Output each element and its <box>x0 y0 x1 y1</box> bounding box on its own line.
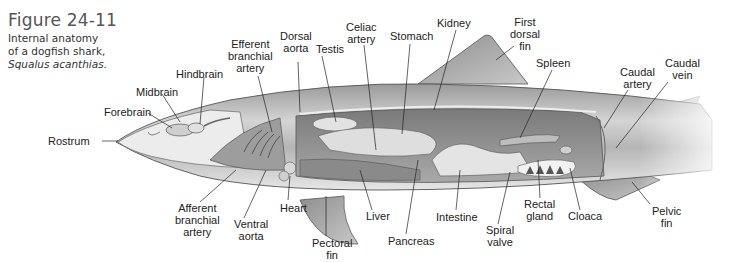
label-liver: Liver <box>366 210 390 222</box>
label-efferent-branchial-artery: Efferent branchial artery <box>228 38 273 74</box>
label-rostrum: Rostrum <box>48 135 90 147</box>
label-caudal-vein: Caudal vein <box>665 57 700 81</box>
label-pectoral-fin: Pectoral fin <box>312 237 352 261</box>
label-kidney: Kidney <box>437 17 471 29</box>
label-cloaca: Cloaca <box>568 210 602 222</box>
label-stomach: Stomach <box>390 30 433 42</box>
label-afferent-branchial-artery: Afferent branchial artery <box>175 202 220 238</box>
label-dorsal-aorta: Dorsal aorta <box>280 30 312 54</box>
label-midbrain: Midbrain <box>136 86 178 98</box>
label-caudal-artery: Caudal artery <box>620 66 655 90</box>
label-hindbrain: Hindbrain <box>176 68 223 80</box>
label-pancreas: Pancreas <box>388 235 434 247</box>
label-spiral-valve: Spiral valve <box>486 224 514 248</box>
label-rectal-gland: Rectal gland <box>524 198 555 222</box>
label-pelvic-fin: Pelvic fin <box>652 205 681 229</box>
label-ventral-aorta: Ventral aorta <box>234 218 268 242</box>
label-testis: Testis <box>316 43 344 55</box>
label-celiac-artery: Celiac artery <box>346 21 377 45</box>
label-intestine: Intestine <box>436 211 478 223</box>
label-first-dorsal-fin: First dorsal fin <box>510 16 540 52</box>
label-spleen: Spleen <box>536 57 570 69</box>
label-heart: Heart <box>280 202 307 214</box>
label-forebrain: Forebrain <box>104 106 151 118</box>
